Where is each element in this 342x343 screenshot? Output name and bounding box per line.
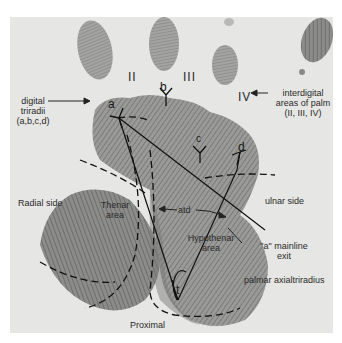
- interdigital-numeral-iii: III: [183, 70, 196, 84]
- ulnar-side-label: ulnar side: [265, 196, 304, 206]
- proximal-label: Proximal: [130, 320, 165, 330]
- hypothenar-area-label: Hypothenar area: [186, 233, 236, 253]
- palmar-axial-triradius-label: palmar axialtriradius: [244, 275, 325, 285]
- digital-triradii-label: digital triradii (a,b,c,d): [14, 96, 52, 126]
- triradius-a-label: a: [108, 97, 115, 111]
- palm-print-illustration: [0, 0, 342, 343]
- atd-angle-label: atd: [178, 205, 191, 215]
- interdigital-numeral-ii: II: [128, 70, 137, 84]
- interdigital-areas-label: interdigital areas of palm (II, III, IV): [268, 88, 338, 118]
- triradius-b-label: b: [160, 80, 167, 94]
- interdigital-numeral-iv: IV: [238, 90, 251, 104]
- palm-print-figure: II III IV a b c d t digital triradii (a,…: [0, 0, 342, 343]
- radial-side-label: Radial side: [18, 198, 63, 208]
- mainline-exit-label: "a" mainline exit: [255, 241, 313, 261]
- triradius-d-label: d: [238, 140, 245, 154]
- fingertip-prints: [72, 13, 339, 85]
- triradius-c-label: c: [196, 133, 201, 144]
- triradius-t-label: t: [176, 283, 179, 297]
- thenar-area-label: Thenar area: [97, 200, 133, 220]
